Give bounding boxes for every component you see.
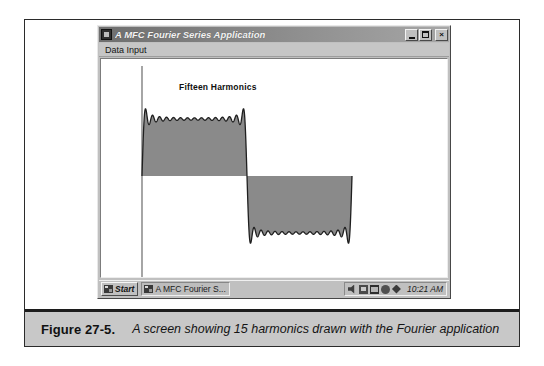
taskbar-item-fourier-app[interactable]: A MFC Fourier S... — [141, 282, 229, 296]
volume-icon[interactable] — [348, 285, 357, 294]
figure-screenshot-area: A MFC Fourier Series Application × Data … — [25, 20, 519, 311]
windows-flag-icon — [104, 285, 113, 293]
menu-item-data-input[interactable]: Data Input — [102, 44, 150, 56]
taskbar-item-label: A MFC Fourier S... — [155, 284, 225, 295]
plot-client-area: Fifteen Harmonics — [100, 58, 448, 278]
restore-button[interactable] — [419, 29, 432, 41]
close-icon: × — [436, 30, 447, 40]
app-icon — [101, 29, 112, 40]
start-button[interactable]: Start — [101, 282, 138, 296]
figure-number: Figure 27-5. — [41, 322, 115, 337]
close-button[interactable]: × — [435, 29, 448, 41]
pointer-icon[interactable] — [392, 285, 401, 294]
menu-bar[interactable]: Data Input — [99, 43, 449, 57]
taskbar[interactable]: Start A MFC Fourier S... 10:21 AM — [99, 280, 449, 297]
battery-icon[interactable] — [381, 285, 390, 294]
minimize-icon — [406, 30, 417, 40]
figure-caption: Figure 27-5. A screen showing 15 harmoni… — [25, 309, 519, 346]
system-tray[interactable]: 10:21 AM — [344, 282, 447, 296]
start-button-label: Start — [115, 284, 134, 295]
figure-caption-text: A screen showing 15 harmonics drawn with… — [132, 322, 499, 336]
minimize-button[interactable] — [405, 29, 418, 41]
taskbar-clock[interactable]: 10:21 AM — [407, 284, 443, 295]
window-title: A MFC Fourier Series Application — [115, 28, 404, 41]
fourier-waveform-plot — [101, 59, 448, 278]
figure-frame: A MFC Fourier Series Application × Data … — [24, 19, 520, 347]
display-icon[interactable] — [359, 285, 368, 294]
network-icon[interactable] — [370, 285, 379, 294]
title-bar[interactable]: A MFC Fourier Series Application × — [99, 27, 449, 42]
application-window[interactable]: A MFC Fourier Series Application × Data … — [97, 25, 451, 299]
restore-icon — [420, 30, 431, 40]
app-icon — [144, 285, 153, 293]
